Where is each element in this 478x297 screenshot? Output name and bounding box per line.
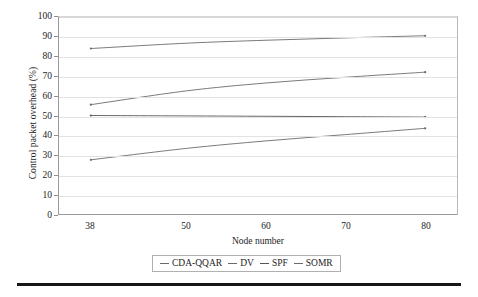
gridline bbox=[59, 196, 457, 197]
gridline bbox=[59, 117, 457, 118]
gridline bbox=[59, 97, 457, 98]
x-tick-label: 38 bbox=[70, 221, 110, 232]
legend-line-icon bbox=[160, 263, 169, 264]
y-tick-mark bbox=[54, 116, 58, 117]
figure-container: Control packet overhead (%) 010203040506… bbox=[0, 0, 478, 297]
y-tick-label: 70 bbox=[18, 71, 52, 81]
y-tick-mark bbox=[54, 36, 58, 37]
chart-legend: CDA-QQARDVSPFSOMR bbox=[152, 255, 341, 272]
legend-label: DV bbox=[240, 258, 254, 269]
y-tick-mark bbox=[54, 76, 58, 77]
series-marker bbox=[90, 159, 92, 161]
plot-area bbox=[58, 16, 458, 215]
y-tick-label: 80 bbox=[18, 51, 52, 61]
legend-entry-cda-qqar[interactable]: CDA-QQAR bbox=[159, 258, 223, 269]
y-tick-label: 40 bbox=[18, 130, 52, 140]
gridline bbox=[59, 176, 457, 177]
series-line-somr bbox=[91, 128, 425, 160]
series-layer bbox=[59, 17, 457, 214]
y-tick-mark bbox=[54, 195, 58, 196]
legend-entry-somr[interactable]: SOMR bbox=[293, 258, 334, 269]
series-marker bbox=[424, 127, 426, 129]
gridline bbox=[59, 156, 457, 157]
y-tick-label: 10 bbox=[18, 190, 52, 200]
series-marker bbox=[90, 104, 92, 106]
y-tick-label: 20 bbox=[18, 170, 52, 180]
legend-line-icon bbox=[294, 263, 303, 264]
gridline bbox=[59, 37, 457, 38]
y-tick-label: 60 bbox=[18, 91, 52, 101]
bottom-rule bbox=[17, 283, 461, 286]
gridline bbox=[59, 17, 457, 18]
legend-label: SOMR bbox=[306, 258, 333, 269]
y-tick-label: 30 bbox=[18, 150, 52, 160]
legend-label: SPF bbox=[272, 258, 288, 269]
y-tick-label: 100 bbox=[18, 11, 52, 21]
gridline bbox=[59, 57, 457, 58]
y-tick-mark bbox=[54, 215, 58, 216]
y-tick-label: 90 bbox=[18, 31, 52, 41]
legend-entry-dv[interactable]: DV bbox=[227, 258, 255, 269]
gridline bbox=[59, 77, 457, 78]
x-tick-label: 70 bbox=[326, 221, 366, 232]
legend-label: CDA-QQAR bbox=[172, 258, 222, 269]
y-tick-mark bbox=[54, 155, 58, 156]
x-axis-title: Node number bbox=[58, 236, 458, 246]
gridline bbox=[59, 136, 457, 137]
x-tick-label: 60 bbox=[246, 221, 286, 232]
y-tick-mark bbox=[54, 96, 58, 97]
series-marker bbox=[424, 71, 426, 73]
x-tick-label: 50 bbox=[166, 221, 206, 232]
y-tick-mark bbox=[54, 16, 58, 17]
y-tick-mark bbox=[54, 135, 58, 136]
y-tick-mark bbox=[54, 175, 58, 176]
legend-line-icon bbox=[228, 263, 237, 264]
y-tick-label: 50 bbox=[18, 111, 52, 121]
legend-line-icon bbox=[260, 263, 269, 264]
y-tick-mark bbox=[54, 56, 58, 57]
y-tick-label: 0 bbox=[18, 210, 52, 220]
x-tick-label: 80 bbox=[406, 221, 446, 232]
legend-entry-spf[interactable]: SPF bbox=[259, 258, 289, 269]
series-marker bbox=[90, 47, 92, 49]
